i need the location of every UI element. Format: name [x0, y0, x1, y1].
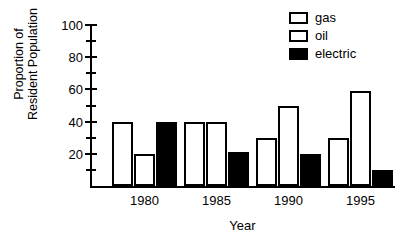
- bar-electric-1985: [228, 152, 249, 186]
- bar-electric-1980: [156, 122, 177, 186]
- x-axis-title: Year: [90, 218, 395, 233]
- bar-gas-1990: [256, 138, 277, 186]
- y-axis-tick-label: 60: [69, 83, 83, 96]
- bar-chart: Proportion of Resident Population 204060…: [0, 0, 405, 246]
- y-axis-title-line-1: Proportion of: [12, 28, 26, 100]
- y-axis-tick-mark: [85, 121, 97, 123]
- bar-group-1980: [112, 25, 177, 186]
- x-axis-tick-label-1985: 1985: [202, 193, 231, 208]
- y-axis-minor-tick: [86, 72, 96, 74]
- y-axis-tick-label: 40: [69, 115, 83, 128]
- y-axis-minor-tick: [86, 40, 96, 42]
- y-axis-line: [90, 25, 92, 188]
- legend-label-electric: electric: [315, 47, 356, 60]
- y-axis-tick-mark: [85, 56, 97, 58]
- legend: gasoilelectric: [289, 9, 356, 63]
- bar-oil-1985: [206, 122, 227, 186]
- x-axis-line: [90, 186, 395, 188]
- bar-oil-1990: [278, 106, 299, 187]
- y-axis-tick-label: 20: [69, 147, 83, 160]
- y-axis-title-line-2: Resident Population: [26, 8, 40, 120]
- y-axis-tick-label: 100: [61, 19, 83, 32]
- bar-gas-1980: [112, 122, 133, 186]
- x-axis-tick-label-1995: 1995: [346, 193, 375, 208]
- bar-gas-1985: [184, 122, 205, 186]
- y-axis-tick-mark: [85, 88, 97, 90]
- y-axis-tick-mark: [85, 153, 97, 155]
- y-axis-tick-mark: [85, 24, 97, 26]
- legend-label-gas: gas: [315, 11, 336, 24]
- y-axis-minor-tick: [86, 105, 96, 107]
- bar-oil-1980: [134, 154, 155, 186]
- x-axis-tick-label-1990: 1990: [274, 193, 303, 208]
- bar-group-1985: [184, 25, 249, 186]
- legend-swatch-gas: [289, 12, 308, 24]
- bar-gas-1995: [328, 138, 349, 186]
- y-axis-minor-tick: [86, 137, 96, 139]
- y-axis-tick-label: 80: [69, 51, 83, 64]
- y-axis-minor-tick: [86, 169, 96, 171]
- legend-item-oil[interactable]: oil: [289, 27, 356, 44]
- bar-electric-1990: [300, 154, 321, 186]
- bar-oil-1995: [350, 91, 371, 186]
- legend-label-oil: oil: [315, 29, 328, 42]
- legend-swatch-oil: [289, 30, 308, 42]
- legend-swatch-electric: [289, 48, 308, 60]
- x-axis-tick-label-1980: 1980: [130, 193, 159, 208]
- legend-item-gas[interactable]: gas: [289, 9, 356, 26]
- legend-item-electric[interactable]: electric: [289, 45, 356, 62]
- bar-electric-1995: [372, 170, 393, 186]
- y-axis-title: Proportion of Resident Population: [8, 0, 44, 154]
